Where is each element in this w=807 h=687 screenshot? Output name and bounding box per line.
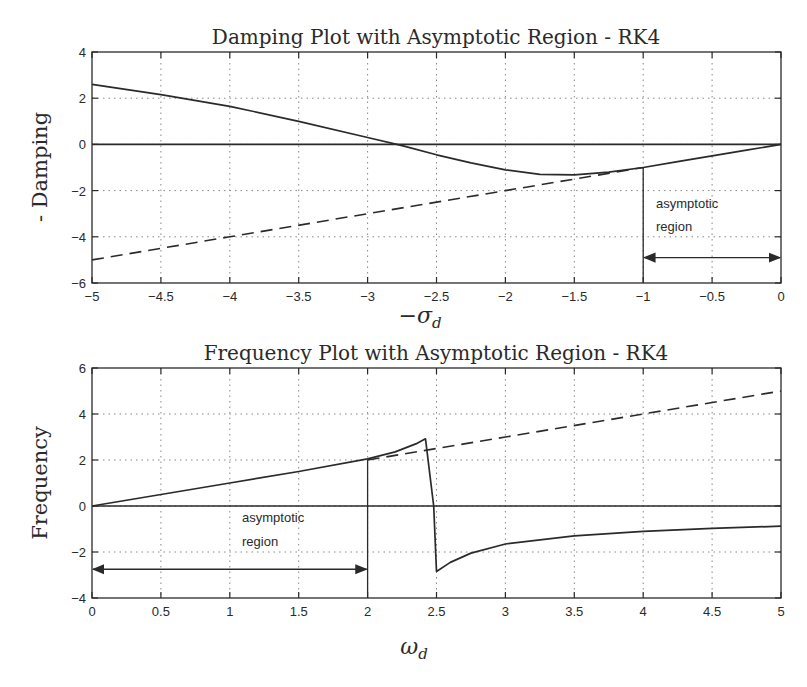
x-tick-label: −4.5 [148, 289, 174, 304]
x-tick-label: −5 [85, 289, 100, 304]
series-asymptote [92, 168, 643, 260]
x-tick-label: −2.5 [424, 289, 450, 304]
x-tick-label: 0 [777, 289, 784, 304]
damping-x-label: −σd [398, 303, 441, 332]
frequency-chart-title: Frequency Plot with Asymptotic Region - … [204, 341, 669, 365]
y-tick-label: 4 [79, 45, 86, 60]
x-tick-label: 1.5 [290, 604, 308, 619]
x-tick-label: −3.5 [286, 289, 312, 304]
y-tick-label: 2 [79, 453, 86, 468]
frequency-ticks: 00.511.522.533.544.55−4−20246 [71, 361, 784, 619]
x-tick-label: 5 [777, 604, 784, 619]
frequency-y-label: Frequency [28, 426, 52, 540]
y-tick-label: 0 [79, 499, 86, 514]
x-tick-label: −3 [360, 289, 375, 304]
damping-ticks: −5−4.5−4−3.5−3−2.5−2−1.5−1−0.50−6−4−2024 [71, 45, 784, 304]
region-label-bottom: region [242, 534, 278, 549]
y-tick-label: −4 [71, 230, 86, 245]
damping-chart-title: Damping Plot with Asymptotic Region - RK… [212, 25, 660, 49]
x-tick-label: 0 [88, 604, 95, 619]
y-tick-label: 6 [79, 361, 86, 376]
x-tick-label: −1.5 [561, 289, 587, 304]
x-tick-label: −2 [498, 289, 513, 304]
y-tick-label: −4 [71, 591, 86, 606]
figure: Damping Plot with Asymptotic Region - RK… [0, 0, 807, 687]
asymptotic-label-bottom: asymptotic [242, 510, 305, 525]
x-tick-label: −1 [636, 289, 651, 304]
x-tick-label: 0.5 [152, 604, 170, 619]
y-tick-label: 4 [79, 407, 86, 422]
y-tick-label: 0 [79, 137, 86, 152]
asymptotic-label-top: asymptotic [656, 196, 719, 211]
x-tick-label: 1 [226, 604, 233, 619]
region-label-top: region [656, 219, 692, 234]
y-tick-label: −6 [71, 276, 86, 291]
damping-grid [92, 52, 781, 283]
damping-y-label: - Damping [28, 112, 52, 222]
x-tick-label: 2 [364, 604, 371, 619]
x-tick-label: 3 [502, 604, 509, 619]
frequency-x-label: ωd [400, 634, 428, 663]
x-tick-label: 4 [640, 604, 647, 619]
y-tick-label: 2 [79, 91, 86, 106]
x-tick-label: 4.5 [703, 604, 721, 619]
x-tick-label: 3.5 [565, 604, 583, 619]
damping-chart: Damping Plot with Asymptotic Region - RK… [28, 25, 785, 332]
x-tick-label: 2.5 [427, 604, 445, 619]
x-tick-label: −4 [222, 289, 237, 304]
y-tick-label: −2 [71, 184, 86, 199]
y-tick-label: −2 [71, 545, 86, 560]
x-tick-label: −0.5 [699, 289, 725, 304]
frequency-chart: Frequency Plot with Asymptotic Region - … [28, 341, 785, 663]
